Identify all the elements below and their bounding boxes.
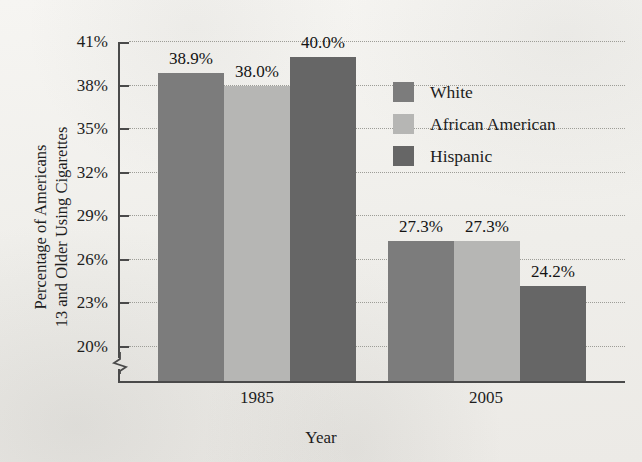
bar	[388, 241, 454, 381]
y-axis-tick-label: 32%	[44, 163, 108, 183]
legend-item-label: Hispanic	[430, 146, 492, 167]
chart-legend: WhiteAfrican AmericanHispanic	[393, 76, 621, 172]
legend-item: African American	[393, 108, 621, 140]
bar-value-label: 40.0%	[301, 33, 345, 53]
bar-value-label: 27.3%	[399, 217, 443, 237]
bar	[224, 86, 290, 381]
y-axis-tick-label: 38%	[44, 76, 108, 96]
bar	[290, 57, 356, 381]
y-axis-tick-label: 20%	[44, 337, 108, 357]
y-axis-top-cap	[118, 42, 129, 44]
y-axis-line	[118, 42, 120, 358]
legend-item: White	[393, 76, 621, 108]
bar	[158, 73, 224, 382]
bar	[520, 286, 586, 381]
x-axis-title: Year	[0, 428, 642, 448]
legend-color-swatch	[393, 114, 414, 134]
y-axis-tick-label: 35%	[44, 119, 108, 139]
legend-color-swatch	[393, 82, 414, 102]
axis-break-icon	[111, 352, 129, 374]
bar-value-label: 38.0%	[235, 62, 279, 82]
x-axis-tick-label: 2005	[469, 388, 503, 408]
legend-color-swatch	[393, 146, 414, 166]
x-axis-tick-label: 1985	[240, 388, 274, 408]
bar-value-label: 24.2%	[531, 262, 575, 282]
gridline	[129, 41, 625, 42]
bar-chart: Percentage of Americans 13 and Older Usi…	[0, 0, 642, 462]
x-axis-line	[118, 381, 625, 383]
bar-value-label: 38.9%	[169, 49, 213, 69]
legend-item: Hispanic	[393, 140, 621, 172]
y-axis-tick-label: 23%	[44, 293, 108, 313]
y-axis-tick-label: 26%	[44, 250, 108, 270]
bar-value-label: 27.3%	[465, 217, 509, 237]
y-axis-tick-label: 41%	[44, 32, 108, 52]
legend-item-label: African American	[430, 114, 556, 135]
y-axis-tick-label: 29%	[44, 206, 108, 226]
y-axis-tick-labels: 20%23%26%29%32%35%38%41%	[44, 0, 108, 462]
bar	[454, 241, 520, 381]
legend-item-label: White	[430, 82, 473, 103]
